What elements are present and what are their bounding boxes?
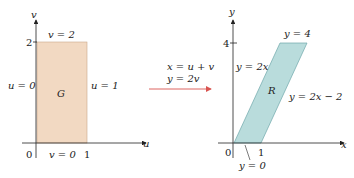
tick-label-v: 2 — [26, 37, 32, 48]
region-g-label: G — [57, 88, 65, 99]
left-edge-label: u = 0 — [8, 80, 36, 91]
right-edge-label: y = 2x − 2 — [288, 91, 343, 102]
top-edge-label: v = 2 — [48, 29, 75, 40]
origin-label: 0 — [26, 149, 32, 160]
bottom-edge-label: v = 0 — [49, 149, 76, 160]
left-plot: v u 2 0 1 v = 2 v = 0 u = 0 u = 1 G — [8, 9, 149, 160]
region-r-label: R — [267, 85, 276, 96]
tick-label-x: 1 — [258, 147, 264, 158]
tick-label-y: 4 — [223, 38, 229, 49]
transform-eq-1: x = u + v — [167, 61, 215, 72]
origin-label: 0 — [225, 147, 231, 158]
transform-eq-2: y = 2v — [166, 73, 200, 84]
x-axis-label: x — [341, 139, 347, 150]
left-edge-label: y = 2x — [235, 61, 269, 72]
transformation: x = u + v y = 2v — [149, 61, 215, 89]
tick-label-u: 1 — [84, 149, 90, 160]
y-axis-label: y — [228, 6, 235, 17]
right-plot: y x 4 0 1 y = 4 y = 0 y = 2x y = 2x − 2 … — [218, 6, 347, 171]
u-axis-label: u — [143, 138, 149, 149]
right-edge-label: u = 1 — [91, 80, 119, 91]
y0-leader — [245, 145, 250, 160]
bottom-edge-label: y = 0 — [238, 160, 266, 171]
top-edge-label: y = 4 — [283, 28, 311, 39]
diagram-canvas: v u 2 0 1 v = 2 v = 0 u = 0 u = 1 G x = … — [0, 0, 354, 178]
v-axis-label: v — [31, 9, 37, 20]
